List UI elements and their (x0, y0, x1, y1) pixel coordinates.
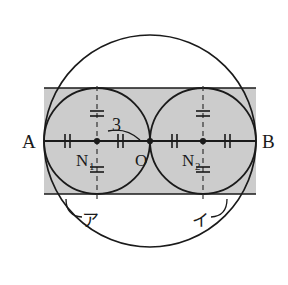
geometry-figure: A B N 1 O N 2 3 ア イ (0, 0, 288, 285)
point-dot-o (147, 138, 153, 144)
region-i-leader-arc (211, 199, 227, 217)
figure-canvas: A B N 1 O N 2 3 ア イ (0, 0, 288, 285)
label-region-a: ア (82, 211, 99, 230)
label-point-n2-subscript: 2 (195, 160, 201, 172)
label-point-b: B (262, 131, 275, 152)
label-point-n1: N (76, 151, 88, 170)
label-point-n1-subscript: 1 (89, 160, 95, 172)
label-region-i: イ (192, 211, 209, 230)
point-dot-n1 (94, 138, 100, 144)
point-dot-n2 (200, 138, 206, 144)
label-point-a: A (22, 131, 36, 152)
label-measure-3: 3 (112, 115, 121, 135)
label-point-n2: N (182, 151, 194, 170)
label-center-o: O (135, 151, 147, 170)
